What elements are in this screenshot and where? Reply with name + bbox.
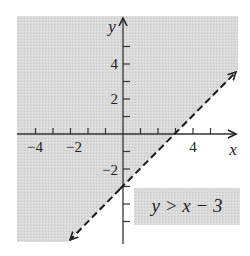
- y-axis-label: y: [106, 17, 116, 36]
- inequality-label: y > x − 3: [149, 195, 222, 216]
- x-tick-label: −4: [27, 139, 43, 155]
- y-tick-label: 4: [111, 56, 119, 72]
- y-tick-label: 2: [111, 91, 119, 107]
- x-tick-label: 4: [189, 139, 197, 155]
- x-tick-label: −2: [66, 139, 82, 155]
- x-axis-label: x: [228, 140, 237, 159]
- inequality-graph: −4 −2 4 4 2 −2 x y y > x − 3: [0, 0, 250, 256]
- y-tick-label: −2: [102, 162, 118, 178]
